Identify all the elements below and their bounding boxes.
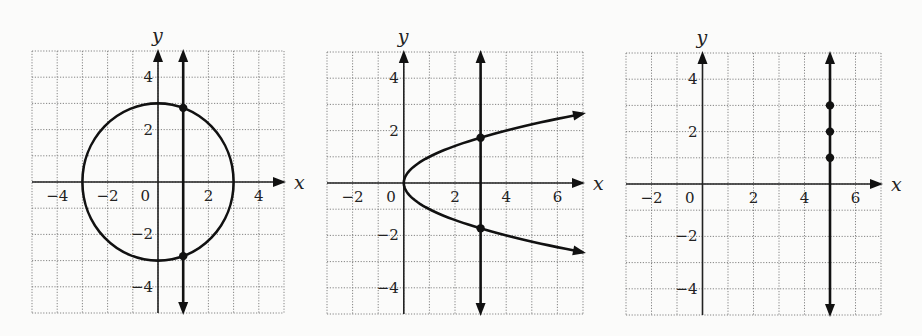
x-tick-label: 6: [553, 188, 563, 206]
y-tick-label: 2: [389, 122, 399, 140]
y-axis-label: y: [151, 24, 163, 46]
data-point: [476, 133, 484, 141]
y-tick-label: 2: [688, 123, 698, 141]
y-axis-label: y: [696, 26, 708, 48]
graph-vertical-line-with-points: xy−2024642−2−4: [626, 26, 902, 317]
relations-graphs-figure: xy−4−202442−2−4 xy−2024642−2−4 xy−202464…: [0, 0, 922, 336]
x-tick-label: −4: [46, 187, 68, 205]
x-tick-label: −2: [640, 189, 662, 207]
y-tick-label: −4: [377, 279, 399, 297]
axes: xy−2024642−2−4: [626, 26, 902, 315]
x-tick-label: −2: [97, 187, 119, 205]
x-axis-label: x: [593, 172, 604, 194]
x-axis-label: x: [891, 173, 902, 195]
data-point: [179, 104, 187, 112]
parabola-arrow-upper-icon: [572, 111, 586, 121]
graph-sideways-parabola-with-vertical-line: xy−2024642−2−4: [327, 25, 604, 316]
y-tick-label: −2: [131, 225, 153, 243]
data-point: [826, 127, 834, 135]
x-tick-label: 0: [386, 188, 396, 206]
x-tick-label: 4: [254, 187, 264, 205]
data-point: [826, 154, 834, 162]
x-tick-label: 6: [851, 189, 861, 207]
axes: xy−2024642−2−4: [327, 25, 604, 314]
y-tick-label: 2: [143, 121, 153, 139]
x-axis-label: x: [294, 171, 305, 193]
data-point: [179, 252, 187, 260]
x-tick-label: 4: [501, 188, 511, 206]
x-tick-label: 2: [450, 188, 460, 206]
x-tick-label: 4: [800, 189, 810, 207]
x-tick-label: −2: [342, 188, 364, 206]
parabola-arrow-lower-icon: [572, 245, 586, 255]
graph-circle-with-vertical-line: xy−4−202442−2−4: [32, 24, 305, 315]
data-point: [476, 224, 484, 232]
x-tick-label: 0: [685, 189, 695, 207]
data-point: [826, 101, 834, 109]
x-tick-label: 2: [749, 189, 759, 207]
axes: xy−4−202442−2−4: [32, 24, 305, 313]
y-axis-label: y: [397, 25, 409, 47]
y-tick-label: −2: [675, 227, 697, 245]
x-tick-label: 0: [140, 187, 150, 205]
y-tick-label: 4: [688, 70, 698, 88]
x-tick-label: 2: [204, 187, 214, 205]
y-tick-label: 4: [143, 68, 153, 86]
y-tick-label: −2: [377, 226, 399, 244]
y-tick-label: 4: [389, 69, 399, 87]
y-tick-label: −4: [675, 280, 697, 298]
y-tick-label: −4: [131, 278, 153, 296]
